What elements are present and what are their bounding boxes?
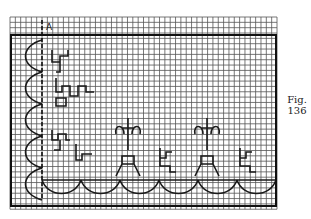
figure-caption-number: 136 bbox=[284, 105, 310, 116]
figure-caption: Fig. 136 bbox=[284, 94, 310, 116]
pattern-chart: A bbox=[0, 0, 311, 219]
figure-caption-line1: Fig. bbox=[284, 94, 310, 105]
marker-a-label: A bbox=[46, 22, 53, 32]
